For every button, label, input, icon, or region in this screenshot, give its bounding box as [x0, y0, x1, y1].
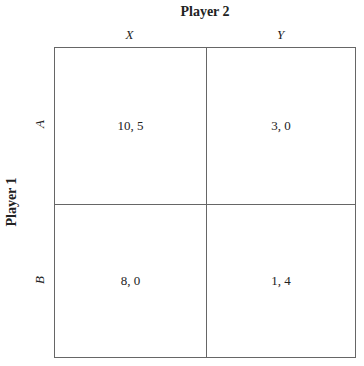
payoff-b-x: 8, 0 [121, 273, 141, 289]
cell-a-y: 3, 0 [206, 48, 355, 204]
column-label-x: X [54, 27, 205, 43]
cell-b-y: 1, 4 [206, 204, 355, 357]
row-label-b: B [32, 272, 48, 288]
player-2-label: Player 2 [0, 4, 364, 20]
player-1-label: Player 1 [4, 152, 20, 252]
payoff-a-x: 10, 5 [118, 118, 144, 134]
cell-b-x: 8, 0 [55, 204, 206, 357]
payoff-a-y: 3, 0 [271, 118, 291, 134]
payoff-matrix: 10, 5 3, 0 8, 0 1, 4 [54, 47, 356, 358]
cell-a-x: 10, 5 [55, 48, 206, 204]
column-label-y: Y [205, 27, 356, 43]
row-label-a: A [32, 116, 48, 132]
payoff-b-y: 1, 4 [271, 273, 291, 289]
